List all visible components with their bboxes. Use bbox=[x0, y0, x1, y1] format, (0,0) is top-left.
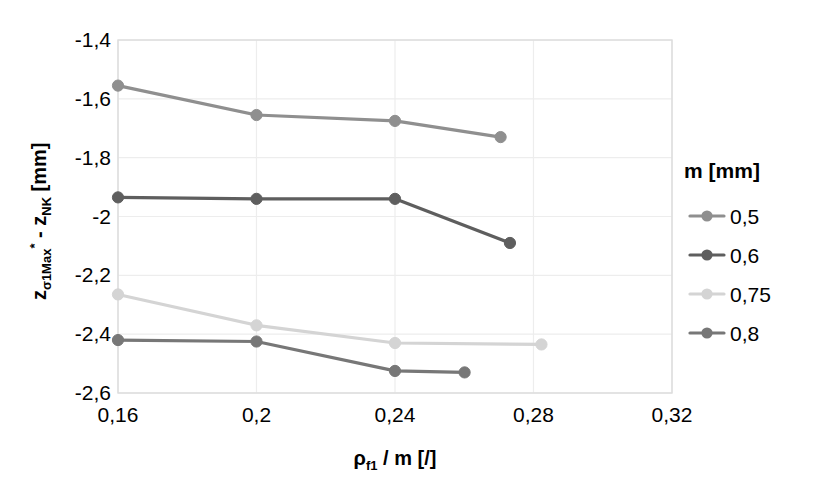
y-title-mid: - bbox=[28, 226, 50, 244]
data-point bbox=[112, 334, 123, 345]
x-tick-label: 0,32 bbox=[652, 403, 693, 426]
x-tick-label: 0,16 bbox=[98, 403, 139, 426]
legend-title: m [mm] bbox=[684, 159, 760, 182]
y-tick-label: -1,4 bbox=[75, 28, 112, 51]
data-point bbox=[459, 367, 470, 378]
y-title-sub2: NK bbox=[39, 196, 54, 215]
data-point bbox=[112, 192, 123, 203]
legend-marker bbox=[701, 249, 712, 260]
data-point bbox=[251, 109, 262, 120]
x-tick-label: 0,28 bbox=[513, 403, 554, 426]
x-title-sub: f1 bbox=[366, 458, 378, 473]
y-tick-label: -2,6 bbox=[75, 381, 111, 404]
legend-marker bbox=[701, 288, 712, 299]
legend-item-label: 0,8 bbox=[730, 322, 759, 345]
y-tick-label: -2,4 bbox=[75, 322, 112, 345]
data-point bbox=[389, 365, 400, 376]
legend-item-label: 0,5 bbox=[730, 205, 759, 228]
data-point bbox=[504, 237, 515, 248]
y-title-unit: [mm] bbox=[28, 143, 50, 197]
x-title-rho: ρ bbox=[354, 447, 366, 469]
y-title-z1: z bbox=[28, 290, 50, 300]
data-point bbox=[389, 337, 400, 348]
data-point bbox=[389, 115, 400, 126]
y-tick-label: -1,6 bbox=[75, 87, 111, 110]
data-point bbox=[251, 193, 262, 204]
data-point bbox=[495, 131, 506, 142]
line-chart: -1,4-1,6-1,8-2-2,2-2,4-2,6 0,160,20,240,… bbox=[0, 0, 827, 487]
x-tick-label: 0,24 bbox=[375, 403, 416, 426]
x-tick-label: 0,2 bbox=[242, 403, 271, 426]
data-point bbox=[251, 336, 262, 347]
y-title-z2: z bbox=[28, 216, 50, 226]
y-title-sub1: σ1Max bbox=[39, 248, 54, 290]
legend-marker bbox=[701, 210, 712, 221]
data-point bbox=[389, 193, 400, 204]
y-tick-label: -1,8 bbox=[75, 146, 111, 169]
data-point bbox=[112, 289, 123, 300]
data-point bbox=[112, 80, 123, 91]
legend-item-label: 0,6 bbox=[730, 244, 759, 267]
x-title-rest: / m [/] bbox=[378, 447, 437, 469]
y-tick-label: -2 bbox=[92, 205, 111, 228]
data-point bbox=[251, 320, 262, 331]
data-point bbox=[536, 339, 547, 350]
y-tick-label: -2,2 bbox=[75, 263, 111, 286]
legend-marker bbox=[701, 327, 712, 338]
chart-figure: -1,4-1,6-1,8-2-2,2-2,4-2,6 0,160,20,240,… bbox=[0, 0, 827, 487]
legend-item-label: 0,75 bbox=[730, 283, 771, 306]
